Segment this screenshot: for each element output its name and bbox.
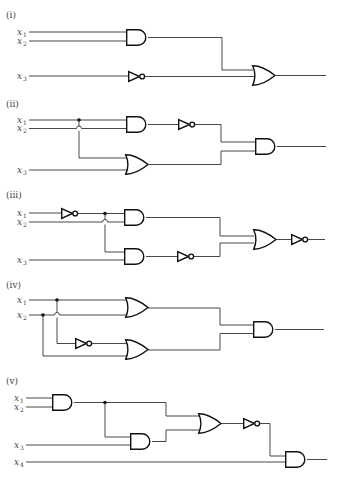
circuit-label-iv: (iv)	[6, 280, 21, 290]
not-gate	[76, 339, 92, 349]
svg-text:2: 2	[23, 314, 27, 321]
or-gate	[199, 414, 221, 434]
input-x3: x3	[17, 255, 27, 266]
svg-text:3: 3	[23, 75, 27, 82]
not-gate	[129, 72, 145, 82]
svg-text:x: x	[17, 310, 22, 320]
input-x4: x4	[14, 457, 24, 468]
or-gate	[126, 155, 148, 175]
svg-text:x: x	[14, 457, 19, 467]
circuit-label-iii: (iii)	[6, 190, 22, 200]
circuit-label-v: (v)	[6, 376, 18, 386]
svg-text:x: x	[17, 123, 22, 133]
svg-text:x: x	[14, 440, 19, 450]
circuit-i: (i) x1 x2 x3	[6, 10, 326, 85]
input-x1: x1	[17, 295, 27, 306]
svg-text:1: 1	[23, 119, 27, 126]
svg-text:1: 1	[23, 299, 27, 306]
svg-text:4: 4	[20, 461, 24, 468]
and-gate	[127, 117, 146, 133]
input-x3: x3	[14, 440, 24, 451]
svg-text:2: 2	[20, 406, 24, 413]
circuit-label-i: (i)	[6, 10, 16, 20]
input-x2: x2	[17, 310, 27, 321]
svg-text:2: 2	[23, 40, 27, 47]
svg-text:3: 3	[23, 169, 27, 176]
svg-text:2: 2	[23, 221, 27, 228]
not-gate	[179, 120, 195, 130]
svg-text:x: x	[17, 255, 22, 265]
svg-text:x: x	[17, 295, 22, 305]
circuit-iv: (iv) x1 x2	[6, 280, 324, 359]
circuit-iii: (iii) x1 x2 x3	[6, 190, 325, 266]
or-gate-lower	[126, 340, 148, 360]
not-gate	[244, 419, 260, 429]
or-gate	[254, 230, 276, 250]
svg-text:x: x	[17, 71, 22, 81]
and-gate-lower	[125, 249, 144, 265]
and-gate-output	[256, 139, 275, 155]
and-gate-output	[254, 322, 273, 338]
not-gate-lower	[178, 252, 194, 262]
svg-text:2: 2	[23, 127, 27, 134]
and-gate	[127, 30, 146, 46]
or-gate-upper	[126, 298, 148, 318]
svg-text:x: x	[14, 402, 19, 412]
and-gate-x1x2	[53, 395, 72, 411]
input-x3: x3	[17, 165, 27, 176]
logic-circuits-figure: (i) x1 x2 x3 (ii) x1 x2 x3	[0, 0, 338, 478]
and-gate-output	[286, 452, 305, 468]
circuit-v: (v) x1 x2 x3 x4	[6, 376, 327, 468]
input-x3: x3	[17, 71, 27, 82]
svg-text:x: x	[17, 165, 22, 175]
circuit-label-ii: (ii)	[6, 99, 19, 109]
circuit-ii: (ii) x1 x2 x3	[6, 99, 326, 176]
svg-text:1: 1	[20, 397, 24, 404]
svg-text:x: x	[17, 36, 22, 46]
svg-text:1: 1	[23, 212, 27, 219]
svg-text:3: 3	[23, 259, 27, 266]
svg-text:3: 3	[20, 444, 24, 451]
svg-text:1: 1	[23, 31, 27, 38]
not-gate-x1	[62, 209, 78, 219]
or-gate	[253, 66, 275, 86]
svg-text:x: x	[17, 217, 22, 227]
and-gate-upper	[125, 210, 144, 226]
not-gate-output	[292, 235, 308, 245]
and-gate-x3	[131, 434, 150, 450]
